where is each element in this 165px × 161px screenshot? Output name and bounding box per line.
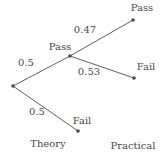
- branch-theory-fail: [13, 86, 78, 131]
- node-label-theory-pass: Pass: [49, 41, 72, 52]
- stage-label-theory: Theory: [30, 138, 66, 149]
- node-label-practical-pass: Pass: [131, 2, 154, 13]
- tree-canvas: 0.5 0.5 0.47 0.53 Pass Fail Pass Fail Th…: [0, 0, 165, 161]
- stage-label-practical: Practical: [110, 140, 155, 151]
- node-label-theory-fail: Fail: [73, 115, 92, 126]
- probability-theory-pass: 0.5: [18, 57, 34, 68]
- probability-tree-diagram: 0.5 0.5 0.47 0.53 Pass Fail Pass Fail Th…: [0, 0, 165, 161]
- probability-theory-fail: 0.5: [29, 106, 45, 117]
- node-dot-theory-fail: [76, 129, 80, 133]
- node-dot-practical-fail: [132, 76, 136, 80]
- node-dot-root: [11, 84, 15, 88]
- node-label-practical-fail: Fail: [137, 61, 156, 72]
- node-dot-theory-pass: [68, 54, 72, 58]
- probability-practical-fail: 0.53: [78, 66, 100, 77]
- node-dot-practical-pass: [131, 18, 135, 22]
- probability-practical-pass: 0.47: [74, 24, 96, 35]
